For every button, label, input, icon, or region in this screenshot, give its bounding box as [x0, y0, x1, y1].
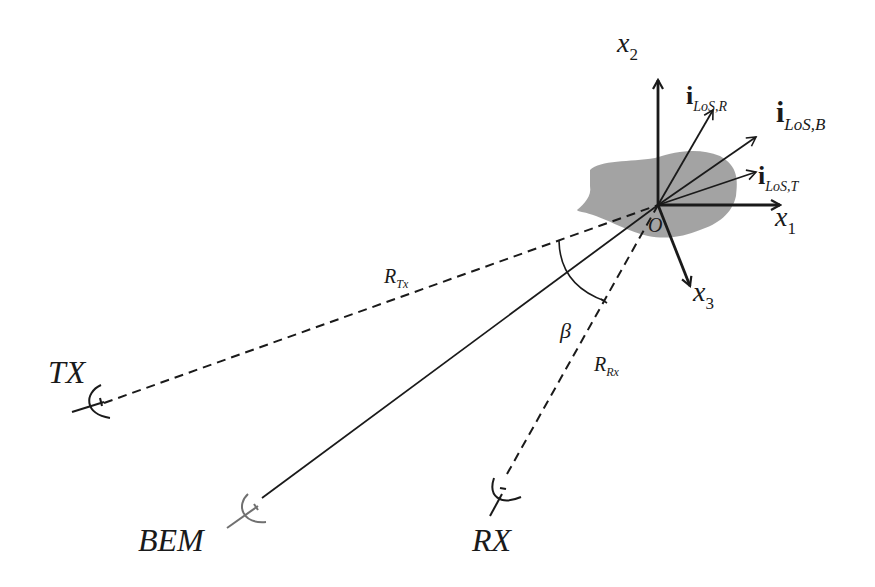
tx-los-line — [104, 205, 658, 403]
tx-label: TX — [48, 354, 87, 390]
r-tx-label: RTx — [383, 265, 409, 291]
rx-antenna-icon — [490, 478, 521, 516]
beta-label: β — [559, 318, 571, 343]
x2-label: x2 — [616, 27, 638, 64]
ilos-r-label: iLoS,R — [686, 81, 728, 114]
rx-label: RX — [471, 522, 513, 558]
ilos-t-label: iLoS,T — [758, 161, 800, 194]
ilos-b-label: iLoS,B — [776, 95, 826, 134]
bem-los-line — [262, 205, 658, 498]
x3-label: x3 — [692, 276, 714, 313]
bem-label: BEM — [138, 522, 206, 558]
rx-los-line — [507, 205, 658, 474]
bistatic-geometry-diagram: O x2 x1 x3 iLoS,R iLoS,B iLoS,T RTx RRx … — [0, 0, 875, 587]
x1-label: x1 — [774, 201, 796, 238]
bem-antenna-icon — [227, 494, 266, 528]
origin-label: O — [648, 214, 662, 236]
r-rx-label: RRx — [593, 353, 620, 379]
